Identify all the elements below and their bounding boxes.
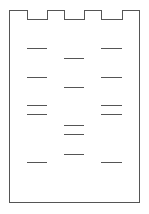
lane-2-band bbox=[64, 125, 84, 127]
lane-2-band bbox=[64, 134, 84, 136]
lane-3-band bbox=[101, 162, 122, 164]
lane-1-band bbox=[27, 162, 47, 164]
lane-3-band bbox=[101, 105, 122, 107]
lane-3-band bbox=[101, 48, 122, 50]
lane-2-well bbox=[64, 10, 85, 20]
lane-1-band bbox=[27, 48, 47, 50]
lane-2-band bbox=[64, 154, 84, 156]
lane-1-well bbox=[27, 10, 48, 20]
lane-3-well bbox=[101, 10, 123, 20]
lane-1-band bbox=[27, 77, 47, 79]
lane-3-band bbox=[101, 114, 122, 116]
lane-2-band bbox=[64, 58, 84, 60]
lane-3-band bbox=[101, 77, 122, 79]
lane-2-band bbox=[64, 87, 84, 89]
lane-1-band bbox=[27, 105, 47, 107]
lane-1-band bbox=[27, 114, 47, 116]
